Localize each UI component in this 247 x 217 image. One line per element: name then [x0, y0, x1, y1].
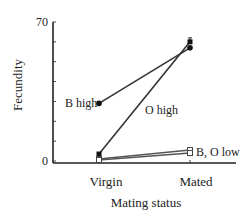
data-point-o-low — [188, 151, 193, 156]
chart: 70 0 Virgin Mated Mating status Fecundit… — [0, 0, 247, 217]
x-tick-label-virgin: Virgin — [90, 174, 123, 189]
data-point-o-high — [188, 39, 193, 44]
data-point-b-high — [187, 45, 193, 51]
x-tick-label-mated: Mated — [179, 174, 213, 189]
y-axis-title: Fecundity — [10, 59, 25, 111]
y-tick-label-70: 70 — [36, 15, 48, 29]
series-line-o-high — [99, 42, 190, 154]
label-b-high: B high — [65, 96, 97, 110]
label-b-o-low: B, O low — [196, 145, 240, 159]
data-point-o-high — [97, 152, 102, 157]
data-point-o-low — [97, 158, 102, 163]
data-series — [96, 38, 193, 163]
label-o-high: O high — [145, 103, 178, 117]
x-axis-title: Mating status — [111, 195, 181, 210]
series-line-b-high — [99, 48, 190, 104]
y-tick-label-0: 0 — [42, 154, 48, 168]
